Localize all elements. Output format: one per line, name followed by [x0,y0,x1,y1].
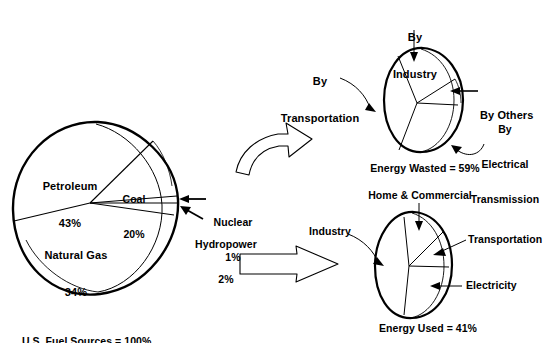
home-commercial-label: Home & Commercial [345,190,495,202]
by-industry-line2: Industry [382,68,448,80]
energy-flow-diagram: Petroleum 43% Coal 20% Natural Gas 34% N… [0,0,551,343]
used-pie-depth-body [375,212,452,318]
by-transportation-label: By Transportation [272,50,368,149]
energy-used-caption: Energy Used = 41% [358,323,498,335]
fuel-sources-caption: U.S. Fuel Sources = 100% of U.S. Energy [22,312,212,343]
transportation-label: Transportation [468,234,551,246]
by-industry-label: By Industry [382,6,448,105]
by-transportation-line2: Transportation [272,112,368,124]
natural-gas-value: 34% [18,286,134,298]
by-transportation-line1: By [272,75,368,87]
nuclear-callout-arrow [179,195,206,203]
hydropower-value: 2% [186,274,266,286]
coal-name: Coal [108,194,160,206]
energy-wasted-caption: Energy Wasted = 59% [355,163,495,175]
natural-gas-label: Natural Gas 34% [18,224,134,323]
industry-label: Industry [300,226,360,238]
natural-gas-name: Natural Gas [18,249,134,261]
fuel-sources-caption-line1: U.S. Fuel Sources = 100% [22,336,212,343]
used-pie-group [348,203,466,318]
hydropower-name: Hydropower [186,239,266,251]
by-electrical-line1: By [461,124,549,136]
by-industry-line1: By [382,31,448,43]
hydropower-label: Hydropower 2% [186,215,266,309]
electricity-label: Electricity [466,280,536,292]
petroleum-name: Petroleum [20,180,120,192]
